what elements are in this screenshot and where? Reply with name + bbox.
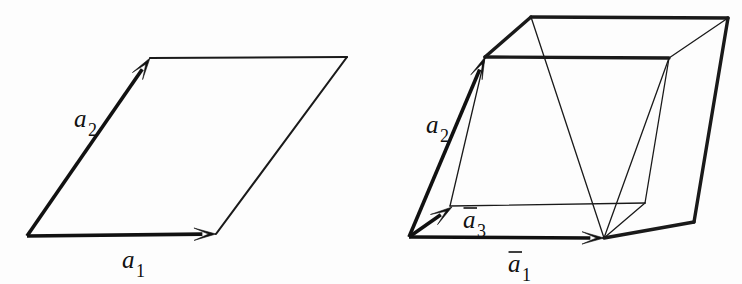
vector-shaft-2d-a2	[27, 69, 142, 236]
cell-edge-thick-3d-0	[485, 17, 531, 57]
cell-edge-thick-3d-1	[531, 17, 728, 18]
cell-edge-thin-3d-1	[645, 58, 669, 203]
vector-label-subscript-2d-a2: 2	[88, 120, 97, 140]
basis-vectors-2d	[27, 58, 216, 240]
vector-label-3d-a1: a	[508, 250, 521, 277]
lattice-figure: a1a2 a1a2a3	[0, 0, 742, 284]
vector-labels-2d: a1a2	[74, 105, 145, 281]
three-dimensional-unit-cell: a1a2a3	[409, 17, 728, 284]
cell-edges-2d	[150, 57, 347, 234]
figure-canvas: a1a2 a1a2a3	[0, 0, 742, 284]
vector-label-subscript-3d-a2: 2	[440, 126, 449, 146]
cell-edge-2d-0	[150, 57, 347, 58]
vector-label-2d-a2: a	[74, 105, 87, 132]
cell-edge-thick-3d-4	[694, 18, 728, 222]
cell-edge-thin-3d-6	[669, 18, 728, 58]
vector-label-3d-a2: a	[426, 111, 439, 138]
vector-label-subscript-2d-a1: 1	[136, 261, 145, 281]
cell-edge-thick-3d-2	[485, 57, 669, 58]
vector-shaft-2d-a1	[27, 234, 202, 236]
vector-labels-3d: a1a2a3	[426, 111, 531, 284]
vector-shaft-3d-a1	[409, 237, 590, 238]
vector-label-2d-a1: a	[122, 246, 135, 273]
vector-label-subscript-3d-a3: 3	[477, 221, 486, 241]
vector-label-subscript-3d-a1: 1	[522, 265, 531, 284]
two-dimensional-unit-cell: a1a2	[27, 57, 347, 281]
cell-edge-2d-1	[216, 57, 347, 234]
cell-edge-thick-3d-3	[604, 222, 694, 238]
vector-label-3d-a3: a	[463, 206, 476, 233]
